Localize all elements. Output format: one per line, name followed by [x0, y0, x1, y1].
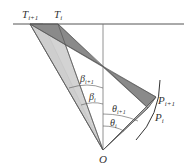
label-P-i: Pi: [154, 111, 164, 125]
label-T-i: Ti: [54, 8, 62, 22]
label-theta-i: θi: [110, 117, 117, 129]
diagram-canvas: Ti+1 Ti βi+1 βi θi+1 θi Pi+1 Pi O: [0, 0, 194, 168]
ray-Ti-O: [58, 24, 103, 150]
geometry-diagram: Ti+1 Ti βi+1 βi θi+1 θi Pi+1 Pi O: [0, 0, 194, 168]
label-P-i1: Pi+1: [157, 94, 175, 108]
label-O: O: [99, 153, 107, 165]
ray-Ti1-Pi1: [30, 24, 156, 97]
label-theta-i1: θi+1: [112, 103, 126, 115]
label-T-i1: Ti+1: [22, 8, 38, 22]
label-beta-i: βi: [88, 91, 96, 103]
label-beta-i1: βi+1: [79, 73, 94, 85]
